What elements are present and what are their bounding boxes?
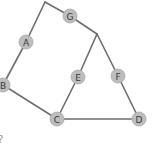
- stray-question-mark: ?: [0, 134, 3, 145]
- graph-diagram: ABCDEFG: [0, 0, 158, 160]
- node-label: B: [0, 81, 6, 91]
- node-label: C: [54, 115, 60, 125]
- node-c: C: [50, 112, 64, 126]
- node-label: A: [23, 38, 30, 48]
- node-a: A: [19, 35, 33, 49]
- node-label: E: [75, 73, 81, 83]
- node-f: F: [111, 69, 125, 83]
- node-b: B: [0, 78, 10, 92]
- node-d: D: [132, 112, 146, 126]
- node-label: D: [136, 115, 143, 125]
- node-label: F: [115, 72, 120, 82]
- node-g: G: [63, 9, 77, 23]
- node-e: E: [71, 70, 85, 84]
- edge-b-c: [3, 85, 57, 119]
- node-label: G: [67, 12, 74, 22]
- nodes-layer: ABCDEFG: [0, 9, 146, 126]
